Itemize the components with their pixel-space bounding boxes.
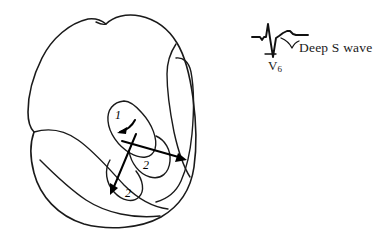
right-lower-cavity-loop [129, 136, 170, 178]
vector-1-arrowhead [117, 127, 127, 134]
vector-1-label: 1 [115, 108, 121, 122]
cardiac-diagram-svg: 1 2 2 [0, 0, 386, 232]
ecg-lead-label: V6 [268, 58, 282, 74]
deep-s-wave-pointer [281, 38, 299, 48]
vector-2-right-label: 2 [143, 158, 149, 172]
heart-outer-outline [28, 15, 196, 228]
vector-1: 1 [115, 108, 135, 134]
vector-2-left: 2 [110, 134, 136, 200]
vector-2-left-label: 2 [125, 186, 131, 200]
lead-subscript: 6 [278, 64, 283, 74]
deep-s-wave-label: Deep S wave [299, 40, 372, 56]
vector-2-right-arrowhead [175, 153, 187, 162]
lead-letter: V [268, 58, 278, 73]
figure-root: 1 2 2 Deep S wave V6 [0, 0, 386, 232]
right-ventricle-cavity [156, 58, 193, 202]
